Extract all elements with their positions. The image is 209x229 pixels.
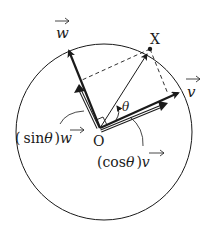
label-w: w xyxy=(55,18,69,42)
vector-arrow-icon xyxy=(70,127,84,133)
label-sin-theta-w: (sinθ)w xyxy=(15,127,84,146)
vector-decomposition-diagram: X w v θ O (sinθ)w (cosθ)v xyxy=(0,0,209,229)
label-origin: O xyxy=(93,133,104,149)
vector-arrow-icon xyxy=(186,76,200,82)
svg-text:v: v xyxy=(187,83,196,101)
svg-text:w: w xyxy=(56,24,69,42)
component-cos-v xyxy=(101,101,168,131)
vector-w xyxy=(69,51,100,128)
theta-arc xyxy=(116,106,119,120)
label-x: X xyxy=(150,31,160,47)
label-cos-theta-v: (cosθ)v xyxy=(97,150,164,170)
svg-text:(sinθ)w: (sinθ)w xyxy=(15,130,72,146)
leader-cos-label xyxy=(130,117,143,146)
svg-text:(cosθ)v: (cosθ)v xyxy=(97,154,150,170)
point-x-dot xyxy=(148,47,152,51)
label-theta: θ xyxy=(122,100,130,114)
vector-arrow-icon xyxy=(149,150,164,156)
leader-sin-label xyxy=(60,111,84,124)
label-v: v xyxy=(186,76,200,101)
dashed-projection-to-v xyxy=(150,49,168,94)
